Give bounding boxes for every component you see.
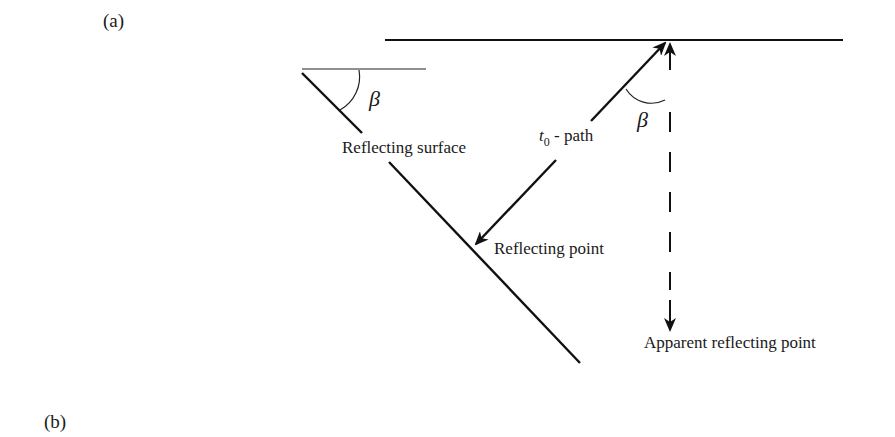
diagram-canvas — [0, 0, 895, 437]
reflecting-surface-line-upper — [302, 73, 362, 133]
t0-path-suffix: - path — [554, 126, 593, 145]
panel-a-label: (a) — [103, 10, 124, 32]
beta-arc-left — [340, 70, 360, 110]
panel-b-label: (b) — [44, 411, 66, 433]
t0-subscript: 0 — [544, 135, 550, 149]
reflecting-surface-line-lower — [389, 162, 580, 363]
reflecting-point-label: Reflecting point — [494, 239, 604, 259]
apparent-reflecting-point-label: Apparent reflecting point — [644, 333, 816, 353]
beta-arc-right — [626, 89, 665, 103]
t0-path-label: t0 - path — [539, 126, 593, 146]
reflecting-surface-label: Reflecting surface — [342, 138, 466, 158]
beta-right-label: β — [637, 107, 648, 133]
t0-path-upper — [591, 43, 665, 121]
beta-left-label: β — [369, 86, 380, 112]
t0-path-lower — [476, 160, 556, 244]
